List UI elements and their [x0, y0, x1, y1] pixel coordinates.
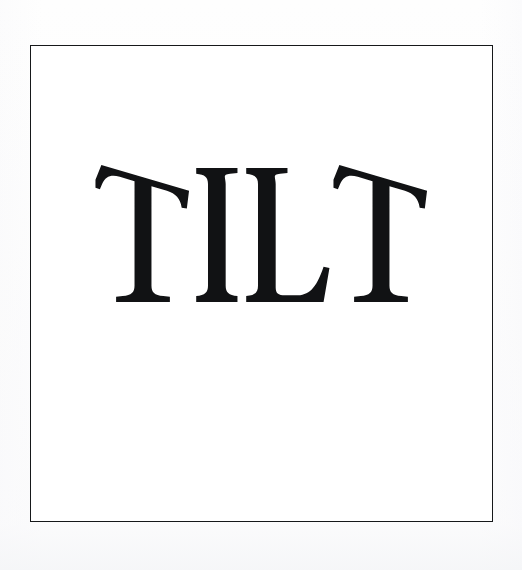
- letter-t-last: [332, 162, 429, 302]
- scanned-page: [0, 0, 522, 570]
- letter-i: [194, 162, 240, 302]
- wordmark-tilt: [31, 162, 492, 302]
- letter-l: [244, 162, 331, 302]
- cover-border-frame: [30, 45, 493, 522]
- letter-t-first: [94, 162, 191, 302]
